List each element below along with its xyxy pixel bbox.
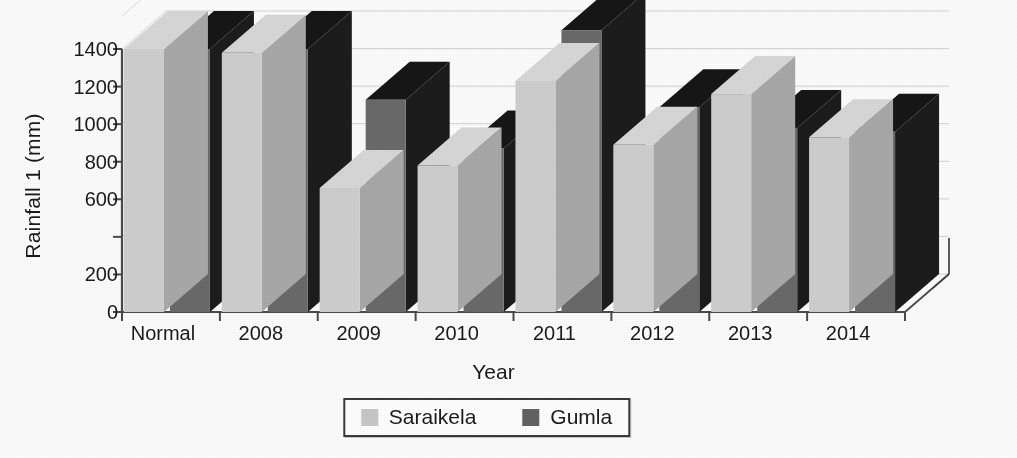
y-axis-ticks: 0200600800100012001400 bbox=[46, 0, 118, 458]
x-tick-label-2012: 2012 bbox=[630, 322, 675, 345]
x-tick-label-2008: 2008 bbox=[239, 322, 284, 345]
bar-2010-saraikela bbox=[418, 127, 502, 312]
bar-2011-saraikela bbox=[515, 43, 599, 312]
x-tick-label-2010: 2010 bbox=[434, 322, 479, 345]
y-tick-label-1200: 1200 bbox=[48, 77, 118, 97]
x-axis-ticks: Normal2008200920102011201220132014 bbox=[0, 322, 1017, 352]
legend-swatch-gumla bbox=[522, 409, 539, 426]
x-tick-label-2013: 2013 bbox=[728, 322, 773, 345]
legend-label-gumla: Gumla bbox=[550, 405, 612, 429]
chart-legend: SaraikelaGumla bbox=[343, 398, 630, 437]
x-tick-label-Normal: Normal bbox=[131, 322, 195, 345]
y-tick-label-600: 600 bbox=[48, 189, 118, 209]
plot-area bbox=[0, 0, 1017, 458]
legend-item-saraikela[interactable]: Saraikela bbox=[361, 405, 477, 429]
y-tick-label-200: 200 bbox=[48, 264, 118, 284]
y-tick-label-800: 800 bbox=[48, 152, 118, 172]
chart-canvas bbox=[0, 0, 1017, 458]
x-tick-label-2009: 2009 bbox=[336, 322, 381, 345]
bar-2014-saraikela bbox=[809, 99, 893, 312]
back-wall-top-depth-edge bbox=[122, 0, 166, 16]
x-tick-label-2011: 2011 bbox=[533, 322, 576, 345]
x-axis-title: Year bbox=[0, 360, 1017, 384]
bar-2013-saraikela bbox=[711, 56, 795, 312]
legend-item-gumla[interactable]: Gumla bbox=[522, 405, 612, 429]
legend-label-saraikela: Saraikela bbox=[389, 405, 477, 429]
bar-2012-saraikela bbox=[613, 107, 697, 312]
y-tick-label-0: 0 bbox=[48, 302, 118, 322]
legend-swatch-saraikela bbox=[361, 409, 378, 426]
bar-Normal-saraikela bbox=[124, 11, 208, 312]
y-tick-label-1000: 1000 bbox=[48, 114, 118, 134]
x-axis-title-text: Year bbox=[472, 360, 514, 384]
x-tick-label-2014: 2014 bbox=[826, 322, 871, 345]
chart-figure: Rainfall 1 (mm) 0200600800100012001400 N… bbox=[0, 0, 1017, 458]
bar-2008-saraikela bbox=[222, 15, 306, 312]
y-tick-label-1400: 1400 bbox=[48, 39, 118, 59]
